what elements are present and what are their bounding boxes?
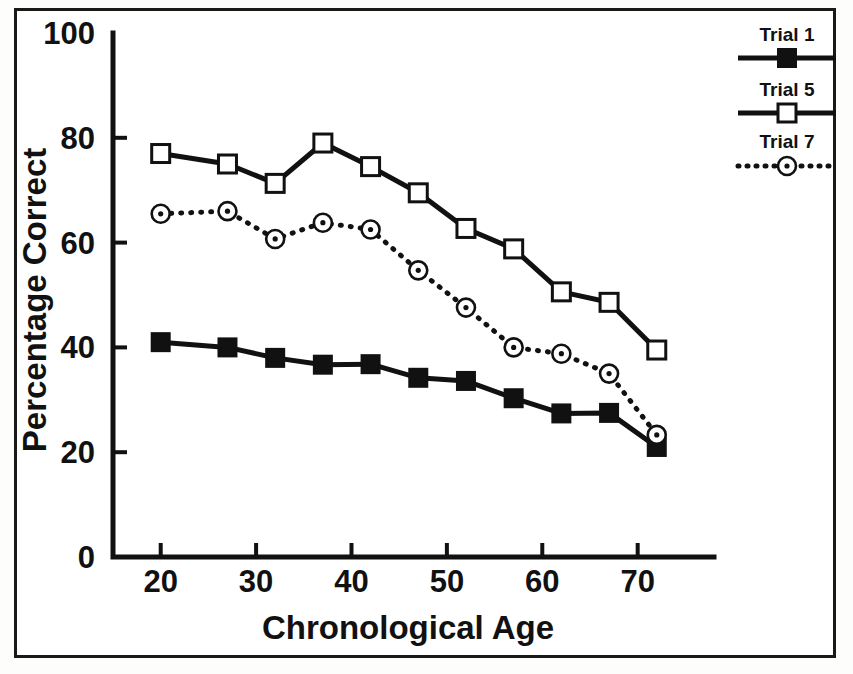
marker-open-square — [409, 184, 427, 202]
legend-label: Trial 7 — [760, 131, 815, 152]
marker-open-square — [505, 240, 523, 258]
marker-circle-center-dot — [368, 227, 373, 232]
series-trial-1 — [152, 333, 666, 456]
marker-circle-center-dot — [511, 345, 516, 350]
x-axis-tick-labels: 203040506070 — [143, 564, 654, 599]
marker-circle-center-dot — [320, 220, 325, 225]
marker-circle-center-dot — [559, 351, 564, 356]
marker-filled-square — [778, 49, 796, 67]
marker-dotted-circle — [648, 426, 666, 444]
marker-filled-square — [600, 404, 618, 422]
legend-entry-trial-7[interactable]: Trial 7 — [738, 131, 836, 175]
marker-dotted-circle — [778, 157, 796, 175]
legend-entry-trial-5[interactable]: Trial 5 — [738, 79, 836, 122]
marker-filled-square — [362, 355, 380, 373]
legend: Trial 1Trial 5Trial 7 — [738, 24, 836, 175]
y-tick-label-20: 20 — [61, 435, 95, 470]
series-trial-7 — [152, 202, 666, 444]
series-line — [161, 342, 657, 447]
marker-open-square — [362, 158, 380, 176]
marker-dotted-circle — [266, 230, 284, 248]
y-tick-label-80: 80 — [61, 121, 95, 156]
marker-circle-center-dot — [463, 305, 468, 310]
marker-dotted-circle — [218, 202, 236, 220]
x-axis-title: Chronological Age — [262, 609, 554, 646]
data-series-layer — [152, 134, 666, 456]
series-markers — [152, 202, 666, 444]
x-tick-label-60: 60 — [525, 564, 559, 599]
marker-open-square — [266, 174, 284, 192]
marker-circle-center-dot — [784, 163, 789, 168]
series-trial-5 — [152, 134, 666, 359]
x-tick-label-30: 30 — [239, 564, 273, 599]
legend-label: Trial 1 — [760, 24, 815, 45]
x-tick-label-40: 40 — [334, 564, 368, 599]
axis-lines — [113, 33, 714, 557]
marker-filled-square — [266, 349, 284, 367]
marker-dotted-circle — [457, 299, 475, 317]
y-tick-label-60: 60 — [61, 226, 95, 261]
y-tick-label-0: 0 — [78, 540, 95, 575]
marker-dotted-circle — [362, 221, 380, 239]
marker-filled-square — [314, 356, 332, 374]
y-axis-title: Percentage Correct — [16, 148, 53, 452]
marker-open-square — [457, 219, 475, 237]
marker-circle-center-dot — [606, 371, 611, 376]
marker-circle-center-dot — [225, 209, 230, 214]
marker-circle-center-dot — [273, 236, 278, 241]
line-chart: 203040506070 020406080100 Trial 1Trial 5… — [0, 0, 853, 674]
marker-open-square — [552, 283, 570, 301]
legend-label: Trial 5 — [760, 79, 815, 100]
series-line — [161, 211, 657, 435]
marker-filled-square — [152, 333, 170, 351]
marker-filled-square — [218, 338, 236, 356]
marker-dotted-circle — [314, 214, 332, 232]
marker-dotted-circle — [600, 365, 618, 383]
marker-dotted-circle — [505, 338, 523, 356]
marker-filled-square — [409, 369, 427, 387]
marker-dotted-circle — [552, 345, 570, 363]
plot-area: 203040506070 020406080100 Trial 1Trial 5… — [0, 0, 853, 674]
series-markers — [152, 333, 666, 456]
legend-entry-trial-1[interactable]: Trial 1 — [738, 24, 836, 67]
series-markers — [152, 134, 666, 359]
marker-dotted-circle — [409, 261, 427, 279]
marker-open-square — [152, 145, 170, 163]
marker-open-square — [218, 155, 236, 173]
marker-filled-square — [505, 389, 523, 407]
marker-open-square — [314, 134, 332, 152]
y-tick-label-100: 100 — [43, 16, 95, 51]
figure-root: 203040506070 020406080100 Trial 1Trial 5… — [0, 0, 853, 674]
marker-filled-square — [552, 404, 570, 422]
marker-open-square — [600, 293, 618, 311]
marker-circle-center-dot — [654, 432, 659, 437]
x-tick-label-70: 70 — [620, 564, 654, 599]
marker-dotted-circle — [152, 205, 170, 223]
marker-circle-center-dot — [158, 211, 163, 216]
marker-open-square — [778, 104, 796, 122]
x-tick-label-20: 20 — [143, 564, 177, 599]
marker-circle-center-dot — [416, 268, 421, 273]
x-tick-label-50: 50 — [430, 564, 464, 599]
marker-filled-square — [457, 372, 475, 390]
y-tick-label-40: 40 — [61, 330, 95, 365]
marker-open-square — [648, 341, 666, 359]
